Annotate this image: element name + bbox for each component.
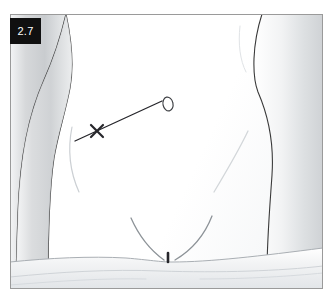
figure-number-badge: 2.7 xyxy=(10,18,41,44)
figure-illustration-2-7: 2.7 xyxy=(0,0,334,302)
clinical-illustration-canvas xyxy=(0,0,334,302)
